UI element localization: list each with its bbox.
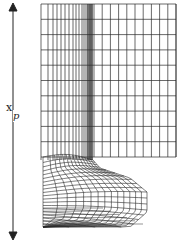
lower-bulb-grid <box>43 154 147 227</box>
dimension-label-x: x <box>6 101 12 114</box>
dimension-label-subscript: p <box>13 110 19 122</box>
mesh-diagram <box>0 0 187 243</box>
upper-grid-block <box>41 4 176 160</box>
arrow-up-icon <box>9 3 17 11</box>
arrow-down-icon <box>9 232 17 240</box>
